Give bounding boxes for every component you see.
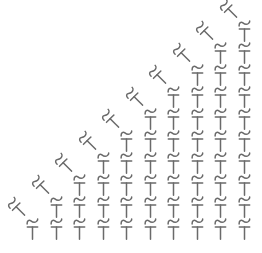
stitch-unit-col6-row5 (144, 130, 157, 152)
stitch-unit-col7-row2 (167, 196, 180, 218)
chain-stitch-icon (214, 42, 227, 50)
stitch-unit-col7-row7 (167, 86, 180, 108)
chain-stitch-icon (191, 86, 204, 94)
stitch-unit-col5-row3 (120, 174, 133, 196)
chain-stitch-icon (238, 130, 251, 138)
stitch-unit-col8-row2 (191, 196, 204, 218)
chain-stitch-icon (238, 20, 251, 28)
hdc-stitch-icon (167, 138, 180, 152)
hdc-stitch-icon (167, 160, 180, 174)
hdc-stitch-icon (238, 50, 251, 64)
stitch-unit-col9-row1 (214, 218, 227, 240)
stitch-unit-col4-row1 (97, 218, 110, 240)
stitch-unit-col8-row4 (191, 152, 204, 174)
chain-stitch-icon (26, 218, 39, 226)
chain-stitch-icon (120, 130, 133, 138)
hdc-stitch-icon (191, 138, 204, 152)
hdc-stitch-icon (97, 182, 110, 196)
stitch-unit-col3-row1 (73, 218, 86, 240)
hdc-stitch-icon (167, 226, 180, 240)
chain-stitch-icon (238, 64, 251, 72)
hdc-stitch-icon (167, 94, 180, 108)
stitch-unit-col9-row8 (214, 64, 227, 86)
hdc-stitch-icon (214, 72, 227, 86)
hdc-stitch-icon (120, 204, 133, 218)
stitch-unit-col1-row1 (26, 218, 39, 240)
hdc-stitch-icon (214, 116, 227, 130)
stitch-unit-col10-row4 (238, 152, 251, 174)
chain-stitch-icon (50, 218, 63, 226)
hdc-stitch-icon (50, 226, 63, 240)
hdc-stitch-icon (97, 160, 110, 174)
stitch-unit-col10-row10 (238, 20, 251, 42)
stitch-unit-col10-row7 (238, 86, 251, 108)
stitch-unit-col8-row6 (191, 108, 204, 130)
stitch-unit-col10-row1 (238, 218, 251, 240)
hdc-stitch-icon (191, 116, 204, 130)
diagonal-stitch-unit-col1 (5, 196, 30, 221)
chain-stitch-icon (144, 218, 157, 226)
hdc-stitch-icon (144, 138, 157, 152)
chain-stitch-icon (167, 218, 180, 226)
hdc-stitch-icon (238, 182, 251, 196)
hdc-stitch-icon (238, 204, 251, 218)
stitch-unit-col4-row4 (97, 152, 110, 174)
stitch-unit-col10-row5 (238, 130, 251, 152)
chain-stitch-icon (191, 130, 204, 138)
chain-stitch-icon (120, 196, 133, 204)
hdc-stitch-icon (120, 160, 133, 174)
hdc-stitch-icon (238, 138, 251, 152)
hdc-stitch-icon (26, 226, 39, 240)
chain-stitch-icon (191, 108, 204, 116)
hdc-stitch-icon (214, 226, 227, 240)
hdc-stitch-icon (214, 94, 227, 108)
stitch-unit-col10-row9 (238, 42, 251, 64)
chain-stitch-icon (191, 152, 204, 160)
chain-stitch-icon (238, 152, 251, 160)
chain-stitch-icon (50, 196, 63, 204)
chain-stitch-icon (214, 196, 227, 204)
chain-stitch-icon (191, 64, 204, 72)
chain-stitch-icon (97, 196, 110, 204)
chain-stitch-icon (144, 174, 157, 182)
stitch-unit-col8-row7 (191, 86, 204, 108)
chain-stitch-icon (214, 108, 227, 116)
stitch-unit-col5-row2 (120, 196, 133, 218)
hdc-stitch-icon (238, 116, 251, 130)
stitch-unit-col9-row2 (214, 196, 227, 218)
hdc-stitch-icon (238, 226, 251, 240)
hdc-stitch-icon (167, 116, 180, 130)
diagonal-stitch-unit-col3 (52, 152, 77, 177)
chain-stitch-icon (214, 64, 227, 72)
diagonal-stitch-unit-col2 (29, 174, 54, 199)
stitch-unit-col6-row6 (144, 108, 157, 130)
hdc-stitch-icon (144, 182, 157, 196)
hdc-stitch-icon (120, 226, 133, 240)
stitch-unit-col6-row3 (144, 174, 157, 196)
stitch-unit-col8-row1 (191, 218, 204, 240)
chain-stitch-icon (167, 196, 180, 204)
chain-stitch-icon (73, 196, 86, 204)
chain-stitch-icon (120, 174, 133, 182)
stitch-unit-col8-row3 (191, 174, 204, 196)
chain-stitch-icon (144, 152, 157, 160)
hdc-stitch-icon (120, 182, 133, 196)
hdc-stitch-icon (214, 50, 227, 64)
hdc-stitch-icon (73, 182, 86, 196)
chain-stitch-icon (214, 218, 227, 226)
diagonal-stitch-unit-col4 (76, 130, 101, 155)
stitch-unit-col7-row4 (167, 152, 180, 174)
stitch-unit-col10-row2 (238, 196, 251, 218)
stitch-unit-col6-row1 (144, 218, 157, 240)
chain-stitch-icon (167, 130, 180, 138)
hdc-stitch-icon (191, 160, 204, 174)
stitch-unit-col5-row5 (120, 130, 133, 152)
stitch-unit-col10-row8 (238, 64, 251, 86)
stitch-unit-col7-row6 (167, 108, 180, 130)
chain-stitch-icon (191, 218, 204, 226)
hdc-stitch-icon (120, 138, 133, 152)
chain-stitch-icon (120, 152, 133, 160)
hdc-stitch-icon (191, 72, 204, 86)
chain-stitch-icon (120, 218, 133, 226)
stitch-unit-col2-row2 (50, 196, 63, 218)
